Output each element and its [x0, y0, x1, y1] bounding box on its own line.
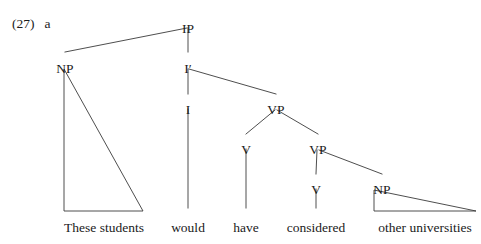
branch-line-group — [65, 28, 382, 208]
tree-node-i: I — [186, 103, 191, 116]
np1-triangle — [64, 69, 143, 211]
leaf-would: would — [171, 221, 205, 234]
leaf-these-students: These students — [64, 221, 144, 234]
leaf-considered: considered — [287, 221, 345, 234]
tree-node-np1: NP — [56, 62, 73, 75]
tree-node-vp1: VP — [267, 103, 284, 116]
branch-line-ip-to-np1 — [65, 28, 187, 52]
leaf-other-universities: other universities — [378, 221, 471, 234]
tree-node-np2: NP — [373, 183, 390, 196]
tree-node-v1: V — [241, 143, 251, 156]
triangle-group — [64, 69, 476, 211]
branch-line-vp2-to-np2 — [319, 150, 382, 174]
tree-node-ibar: I′ — [184, 62, 191, 75]
branch-line-ibar-to-vp1 — [189, 69, 276, 94]
leaf-have: have — [233, 221, 258, 234]
tree-node-vp2: VP — [309, 143, 326, 156]
syntax-tree-figure: (27)a IPNPI′IVPVVPVNP These studentswoul… — [0, 0, 481, 244]
tree-branches-svg — [0, 0, 481, 244]
tree-node-ip: IP — [182, 22, 194, 35]
tree-node-v2: V — [311, 183, 321, 196]
